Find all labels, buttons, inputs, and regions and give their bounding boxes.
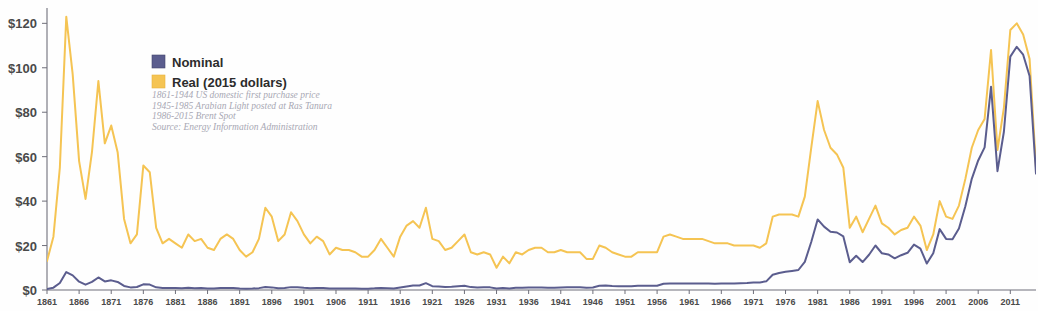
y-tick-label: $60 xyxy=(15,150,37,165)
chart-canvas: $0$20$40$60$80$100$120 18611866187118761… xyxy=(0,0,1038,311)
chart-legend: NominalReal (2015 dollars) xyxy=(152,55,287,90)
y-axis: $0$20$40$60$80$100$120 xyxy=(8,8,47,298)
x-tick-label: 1906 xyxy=(326,297,346,307)
y-tick-label: $0 xyxy=(23,283,37,298)
legend-label: Real (2015 dollars) xyxy=(172,75,287,90)
x-tick-label: 1911 xyxy=(358,297,378,307)
x-tick-label: 1926 xyxy=(454,297,474,307)
x-tick-label: 1931 xyxy=(487,297,507,307)
x-tick-label: 1886 xyxy=(198,297,218,307)
x-tick-label: 1871 xyxy=(101,297,121,307)
legend-swatch xyxy=(152,75,165,88)
x-tick-label: 2011 xyxy=(1001,297,1021,307)
x-tick-label: 1971 xyxy=(743,297,763,307)
x-tick-label: 1981 xyxy=(808,297,828,307)
x-tick-label: 1896 xyxy=(262,297,282,307)
chart-annotations: 1861-1944 US domestic first purchase pri… xyxy=(152,90,332,132)
x-tick-label: 1966 xyxy=(711,297,731,307)
x-tick-label: 1941 xyxy=(551,297,571,307)
annotation-line: Source: Energy Information Administratio… xyxy=(152,122,318,132)
y-tick-label: $20 xyxy=(15,239,37,254)
legend-swatch xyxy=(152,55,165,68)
y-tick-label: $100 xyxy=(8,61,37,76)
x-tick-label: 1951 xyxy=(615,297,635,307)
x-tick-label: 2001 xyxy=(936,297,956,307)
x-tick-label: 1916 xyxy=(390,297,410,307)
x-tick-label: 1936 xyxy=(519,297,539,307)
y-tick-label: $80 xyxy=(15,105,37,120)
x-tick-label: 2006 xyxy=(968,297,988,307)
x-tick-label: 1866 xyxy=(69,297,89,307)
annotation-line: 1986-2015 Brent Spot xyxy=(152,111,236,121)
x-tick-label: 1891 xyxy=(230,297,250,307)
x-tick-label: 1861 xyxy=(37,297,57,307)
oil-price-chart: $0$20$40$60$80$100$120 18611866187118761… xyxy=(0,0,1038,311)
y-tick-label: $120 xyxy=(8,16,37,31)
x-tick-label: 1921 xyxy=(422,297,442,307)
annotation-line: 1945-1985 Arabian Light posted at Ras Ta… xyxy=(152,101,332,111)
x-tick-label: 1956 xyxy=(647,297,667,307)
x-tick-label: 1976 xyxy=(776,297,796,307)
x-tick-label: 1881 xyxy=(165,297,185,307)
x-axis: 1861186618711876188118861891189619011906… xyxy=(37,290,1036,307)
x-tick-label: 1991 xyxy=(872,297,892,307)
legend-label: Nominal xyxy=(172,55,223,70)
y-tick-label: $40 xyxy=(15,194,37,209)
x-tick-label: 1876 xyxy=(133,297,153,307)
x-tick-label: 1946 xyxy=(583,297,603,307)
x-tick-label: 1996 xyxy=(904,297,924,307)
annotation-line: 1861-1944 US domestic first purchase pri… xyxy=(152,90,320,100)
x-tick-label: 1986 xyxy=(840,297,860,307)
x-tick-label: 1961 xyxy=(679,297,699,307)
x-tick-label: 1901 xyxy=(294,297,314,307)
